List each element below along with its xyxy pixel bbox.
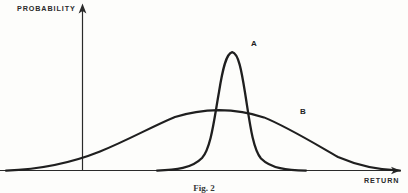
curve-b-path [6,110,400,171]
figure-container: PROBABILITY RETURN A B Fig. 2 [0,0,408,193]
probability-distribution-chart [0,0,408,193]
y-axis-label: PROBABILITY [17,5,76,12]
figure-caption: Fig. 2 [0,184,408,193]
curve-b-label: B [300,108,306,116]
curve-a-label: A [251,40,257,48]
